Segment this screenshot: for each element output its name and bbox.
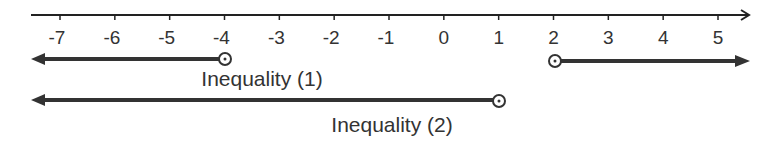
number-line-diagram: -7-6-5-4-3-2-1012345 Inequality (1) Ineq…: [0, 0, 771, 143]
inequality-1-left-ray: [31, 53, 231, 65]
inequality-2-label: Inequality (2): [331, 113, 452, 136]
inequality-1: Inequality (1): [31, 53, 750, 90]
arrow-left-icon: [31, 94, 45, 106]
axis-tick-label: -6: [103, 27, 120, 48]
axis-tick-label: 4: [658, 27, 669, 48]
inequality-1-label: Inequality (1): [201, 67, 322, 90]
axis-tick-label: -3: [268, 27, 285, 48]
axis-tick-label: -4: [213, 27, 230, 48]
axis-tick-label: 1: [493, 27, 504, 48]
axis-tick-label: -1: [378, 27, 395, 48]
axis-tick-labels: -7-6-5-4-3-2-1012345: [49, 27, 724, 48]
number-line-axis: [31, 10, 749, 20]
axis-tick-label: -7: [49, 27, 66, 48]
axis-tick-label: 2: [548, 27, 559, 48]
axis-tick-label: 3: [603, 27, 614, 48]
axis-tick-label: 5: [713, 27, 724, 48]
axis-tick-label: 0: [439, 27, 450, 48]
axis-tick-label: -2: [323, 27, 340, 48]
arrow-left-icon: [31, 53, 45, 65]
arrow-right-icon: [735, 55, 750, 67]
axis-tick-label: -5: [158, 27, 175, 48]
inequality-2: Inequality (2): [31, 94, 505, 136]
inequality-1-right-ray: [549, 55, 750, 67]
